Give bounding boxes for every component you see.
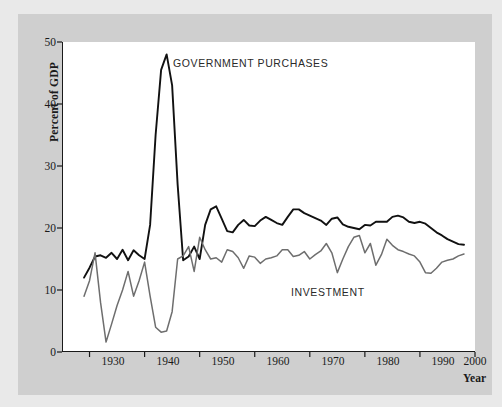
y-tick-label-0: 0 (30, 346, 56, 358)
x-tick-label-1930: 1930 (93, 355, 133, 367)
y-tick-label-10: 10 (30, 284, 56, 296)
series-label-investment: INVESTMENT (291, 286, 365, 298)
series-label-government: GOVERNMENT PURCHASES (173, 57, 328, 69)
y-tick-label-30: 30 (30, 160, 56, 172)
x-tick-label-1960: 1960 (258, 355, 298, 367)
y-tick-label-20: 20 (30, 222, 56, 234)
x-tick-label-1970: 1970 (313, 355, 353, 367)
y-tick-label-40: 40 (30, 98, 56, 110)
x-tick-label-1940: 1940 (148, 355, 188, 367)
y-tick-label-50: 50 (30, 36, 56, 48)
x-tick-label-2000: 2000 (455, 355, 495, 367)
plot-area (62, 42, 475, 352)
figure-container: Percent of GDP 50 40 30 20 10 0 1930 194… (0, 0, 502, 407)
x-tick-label-1950: 1950 (203, 355, 243, 367)
x-tick-label-1980: 1980 (368, 355, 408, 367)
x-axis-label: Year (463, 372, 486, 384)
